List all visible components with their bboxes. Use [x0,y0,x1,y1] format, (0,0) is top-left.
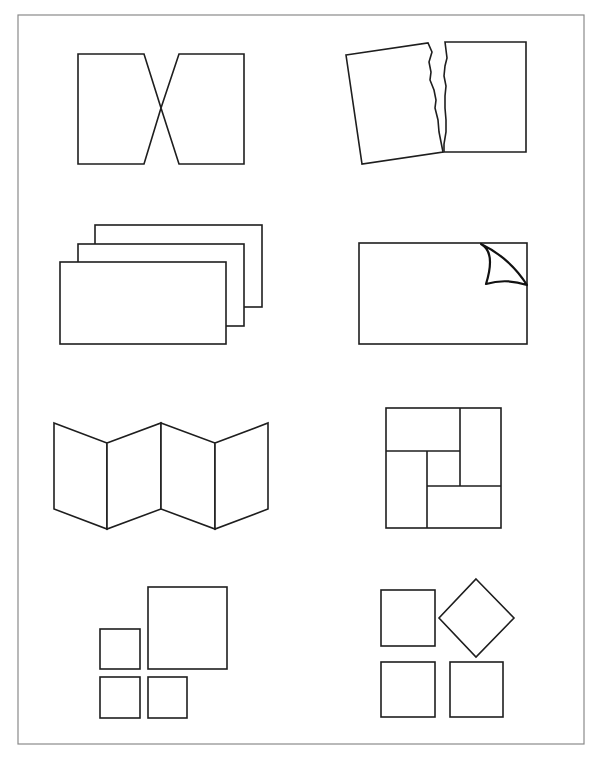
fold-panel-4 [215,423,268,529]
front-card [60,262,226,344]
page-curl-figure [359,243,527,344]
small-square [100,677,140,718]
stacked-cards-figure [60,225,262,344]
torn-paper-left-piece [346,43,443,164]
torn-paper-right-piece [444,42,526,152]
square-bottom-left [381,662,435,717]
torn-paper-figure [346,42,526,164]
figure-sheet [0,0,604,758]
diamond [439,579,514,657]
small-square [100,629,140,669]
pinwheel-square-figure [386,408,501,528]
small-square [148,677,187,718]
bowtie-left-panel [78,54,161,164]
large-square [148,587,227,669]
square-top-left [381,590,435,646]
bowtie-right-panel [161,54,244,164]
bowtie-rectangles-figure [78,54,244,164]
zigzag-folder-figure [54,423,268,529]
square-bottom-right [450,662,503,717]
fold-panel-2 [107,423,161,529]
pinwheel-outer [386,408,501,528]
fold-panel-1 [54,423,107,529]
squares-with-diamond-figure [381,579,514,717]
squares-grouping-figure [100,587,227,718]
fold-panel-3 [161,423,215,529]
